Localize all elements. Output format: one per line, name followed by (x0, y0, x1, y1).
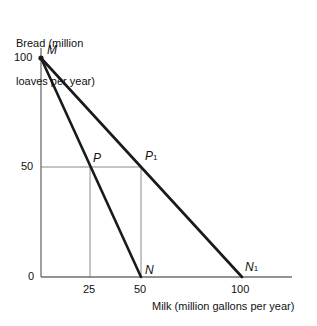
y-tick-label-0: 0 (28, 270, 34, 283)
x-tick-label-25: 25 (83, 283, 95, 296)
x-axis-title: Milk (million gallons per year) (152, 300, 294, 313)
x-tick-label-50: 50 (134, 283, 146, 296)
point-label-p1-base: P (145, 149, 153, 163)
chart-figure: Bread (million loaves per year) Milk (mi… (0, 0, 317, 326)
point-label-n1: N1 (245, 261, 258, 275)
point-label-n1-base: N (245, 260, 254, 274)
point-label-n1-subscript: 1 (254, 264, 258, 273)
y-tick-label-50: 50 (21, 160, 33, 173)
x-tick-label-100: 100 (231, 283, 249, 296)
point-label-p: P (93, 152, 101, 166)
point-label-p1-subscript: 1 (153, 153, 157, 162)
point-label-n: N (145, 264, 154, 278)
y-tick-label-100: 100 (14, 51, 32, 64)
y-axis-title-line2: loaves per year) (16, 75, 95, 88)
point-label-m: M (47, 44, 57, 58)
guide-lines (41, 167, 141, 277)
point-label-p1: P1 (145, 150, 157, 164)
